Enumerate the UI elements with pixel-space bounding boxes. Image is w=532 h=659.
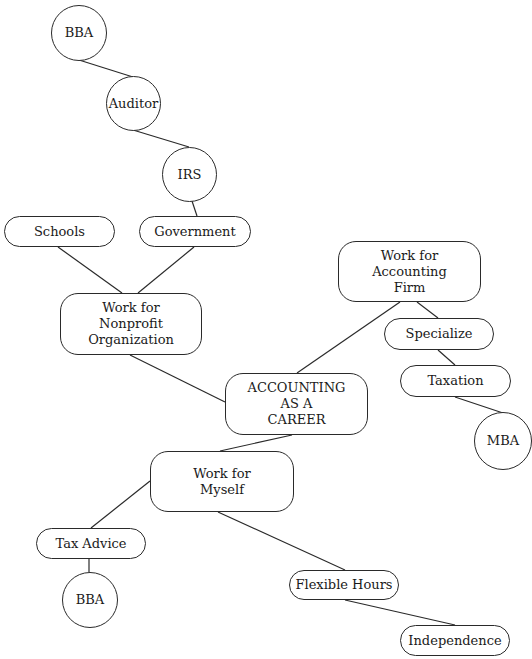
- node-irs: IRS: [162, 147, 217, 202]
- node-government: Government: [139, 216, 251, 247]
- edge-myself-taxadvice: [91, 481, 150, 528]
- node-accounting-firm: Work for Accounting Firm: [338, 241, 481, 302]
- node-nonprofit: Work for Nonprofit Organization: [60, 293, 202, 355]
- edge-specialize-taxation: [438, 350, 455, 365]
- node-schools: Schools: [4, 216, 115, 247]
- node-independence: Independence: [400, 625, 510, 656]
- node-work-for-myself: Work for Myself: [150, 451, 294, 512]
- node-flexible-hours: Flexible Hours: [289, 570, 399, 600]
- node-specialize: Specialize: [384, 318, 494, 350]
- edge-schools-nonprofit: [58, 247, 122, 293]
- node-bba-bottom: BBA: [62, 572, 118, 628]
- edge-flexible-independence: [345, 600, 455, 625]
- node-bba-top: BBA: [51, 5, 107, 61]
- node-center-accounting-career: ACCOUNTING AS A CAREER: [225, 373, 368, 435]
- edge-taxation-mba: [455, 397, 503, 413]
- node-tax-advice: Tax Advice: [36, 528, 146, 559]
- edge-center-myself: [220, 435, 292, 451]
- edge-bba-auditor: [79, 60, 133, 77]
- edge-government-nonprofit: [138, 247, 194, 293]
- edge-firm-specialize: [417, 302, 438, 318]
- node-mba: MBA: [474, 412, 532, 470]
- edge-auditor-irs: [133, 130, 189, 147]
- node-auditor: Auditor: [106, 76, 161, 131]
- edge-irs-government: [192, 201, 197, 216]
- edge-myself-flexible: [218, 512, 345, 570]
- edge-nonprofit-center: [130, 355, 225, 402]
- node-taxation: Taxation: [400, 365, 511, 397]
